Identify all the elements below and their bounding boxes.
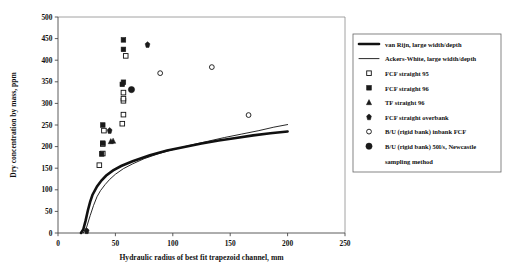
y-tick-label: 300 [41,99,52,108]
data-point [158,71,163,76]
data-point [209,65,214,70]
data-point [121,80,126,85]
legend-label: sampling method [385,158,433,165]
x-tick-label: 250 [339,239,350,248]
legend-marker-open-square-icon [367,71,372,76]
legend: van Rijn, large width/depthAckers-White,… [353,34,501,172]
legend-marker-filled-square-icon [367,86,372,91]
legend-label: Ackers-White, large width/depth [385,55,477,62]
series-open-square [97,54,128,168]
legend-item[interactable]: sampling method [385,158,433,165]
data-series [81,38,288,234]
data-point [120,121,125,126]
data-point [102,128,107,133]
data-point [121,38,126,43]
series-triangle [108,138,115,144]
data-point [128,86,134,92]
data-point [123,54,128,59]
y-tick-label: 250 [41,121,52,130]
legend-label: B/U (rigid bank) inbank FCF [385,128,466,136]
data-point [246,113,251,118]
y-tick-label: 50 [45,207,53,216]
legend-marker-filled-circle-icon [366,143,372,149]
legend-label: van Rijn, large width/depth [385,41,462,48]
data-point [121,112,126,117]
y-tick-label: 100 [41,185,52,194]
data-point [121,96,126,101]
data-point [121,47,126,52]
data-point [145,42,150,48]
data-point [100,123,105,128]
y-axis-title: Dry concentration by mass, ppm [9,71,18,177]
legend-label: FCF straight overbank [385,114,449,121]
x-tick-label: 150 [225,239,236,248]
legend-label: FCF straight 96 [385,85,430,92]
data-point [100,141,105,146]
legend-marker-open-circle-icon [367,129,372,134]
y-tick-label: 450 [41,34,52,43]
series-open-circle [158,65,251,118]
y-axis-ticks: 050100150200250300350400450500 [41,13,58,238]
data-point [84,228,89,234]
y-tick-label: 200 [41,142,52,151]
y-tick-label: 500 [41,13,52,22]
x-tick-label: 0 [56,239,60,248]
y-tick-label: 400 [41,56,52,65]
x-axis-title: Hydraulic radius of best fit trapezoid c… [119,253,284,262]
x-axis-ticks: 050100150200250 [56,233,351,248]
y-tick-label: 150 [41,164,52,173]
x-tick-label: 200 [282,239,293,248]
series-filled-circle [128,86,134,92]
chart-figure: 0501001502002503003504004505000501001502… [0,0,505,277]
y-tick-label: 0 [49,229,53,238]
data-point [99,152,104,157]
legend-label: TF straight 96 [385,99,425,106]
legend-label: B/U (rigid bank) 50l/s, Newcastle [385,143,476,151]
data-point [121,90,126,95]
y-tick-label: 350 [41,77,52,86]
data-point [97,163,102,168]
x-tick-label: 100 [167,239,178,248]
x-tick-label: 50 [112,239,120,248]
scatter-plot: 0501001502002503003504004505000501001502… [0,0,505,277]
data-point [107,128,112,134]
legend-label: FCF straight 95 [385,70,430,77]
